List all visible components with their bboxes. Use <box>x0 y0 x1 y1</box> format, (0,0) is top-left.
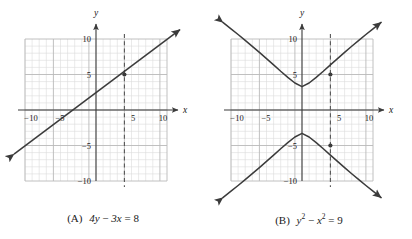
caption-equation-a: 4y − 3x = 8 <box>89 212 139 224</box>
y-tick-label-5-a: 5 <box>87 70 91 80</box>
x-tick-label-10-b: 10 <box>365 113 374 123</box>
x-tick-label-5-b: 5 <box>337 113 341 123</box>
coordinate-plane-a: −10 −5 5 10 10 5 −5 −10 x y <box>0 0 206 212</box>
x-tick-label-5-a: 5 <box>131 113 135 123</box>
caption-label-a: (A) <box>67 212 82 224</box>
y-tick-label-neg5-b: −5 <box>288 141 297 151</box>
y-tick-label-10-b: 10 <box>289 34 298 44</box>
y-tick-label-10-a: 10 <box>83 34 92 44</box>
x-axis-label-b: x <box>388 105 394 115</box>
x-tick-label-neg10-b: −10 <box>230 113 243 123</box>
graph-panel-b: −10 −5 5 10 10 5 −5 −10 x y (B) y2 − x2 … <box>206 0 412 239</box>
y-tick-label-neg5-a: −5 <box>82 141 91 151</box>
intersection-point-upper-b <box>328 72 332 76</box>
caption-label-b: (B) <box>275 214 290 226</box>
y-tick-label-neg10-a: −10 <box>78 176 91 186</box>
caption-equation-b: y2 − x2 = 9 <box>297 214 343 226</box>
y-axis-label-a: y <box>93 8 99 18</box>
x-tick-label-neg5-a: −5 <box>55 113 64 123</box>
coordinate-plane-b: −10 −5 5 10 10 5 −5 −10 x y <box>206 0 412 212</box>
x-tick-label-neg10-a: −10 <box>24 113 37 123</box>
caption-a: (A) 4y − 3x = 8 <box>0 212 206 224</box>
caption-b: (B) y2 − x2 = 9 <box>206 212 412 226</box>
intersection-point-lower-b <box>328 143 332 147</box>
x-axis-label-a: x <box>182 105 188 115</box>
y-tick-label-neg10-b: −10 <box>284 176 297 186</box>
graph-panel-a: −10 −5 5 10 10 5 −5 −10 x y (A) 4y − 3x … <box>0 0 206 239</box>
y-axis-label-b: y <box>299 8 305 18</box>
y-tick-label-5-b: 5 <box>293 70 297 80</box>
intersection-point-a <box>122 72 126 76</box>
x-tick-label-10-a: 10 <box>159 113 168 123</box>
two-graph-figure: −10 −5 5 10 10 5 −5 −10 x y (A) 4y − 3x … <box>0 0 412 239</box>
x-tick-label-neg5-b: −5 <box>261 113 270 123</box>
